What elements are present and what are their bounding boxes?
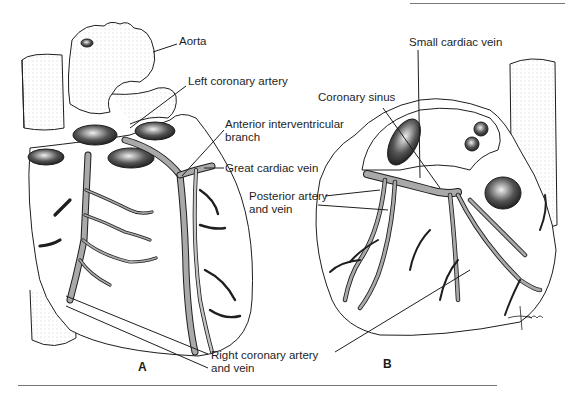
label-posterior-artery-2: and vein xyxy=(249,203,292,216)
panel-letter-a: A xyxy=(138,360,147,374)
label-right-coronary-1: Right coronary artery xyxy=(211,349,318,362)
label-great-cardiac-vein: Great cardiac vein xyxy=(225,162,318,175)
label-aorta: Aorta xyxy=(179,35,207,48)
bottom-rule xyxy=(18,385,497,386)
label-anterior-interventricular-2: branch xyxy=(225,131,260,144)
coronary-vessels-figure: Aorta Left coronary artery Anterior inte… xyxy=(0,0,574,397)
panel-letter-b: B xyxy=(383,357,392,371)
label-right-coronary-2: and vein xyxy=(211,362,254,375)
label-left-coronary-artery: Left coronary artery xyxy=(188,75,288,88)
label-posterior-artery-1: Posterior artery xyxy=(249,190,328,203)
label-coronary-sinus: Coronary sinus xyxy=(318,91,395,104)
label-anterior-interventricular-1: Anterior interventricular xyxy=(225,118,344,131)
label-small-cardiac-vein: Small cardiac vein xyxy=(409,36,502,49)
